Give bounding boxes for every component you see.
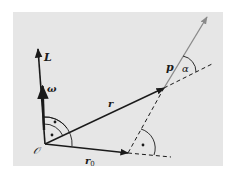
label-L: L — [43, 51, 52, 64]
angular-velocity-vector — [43, 86, 45, 130]
right-angle-dot-r0 — [142, 144, 145, 147]
label-r: r — [108, 98, 114, 109]
right-angle-dot-inner — [51, 134, 54, 137]
label-p: p — [166, 61, 174, 74]
label-alpha: α — [182, 63, 189, 74]
label-omega: ω — [47, 83, 57, 94]
right-angle-dot-outer — [54, 121, 57, 124]
angular-momentum-diagram: L ω r p α r0 𝒪 — [0, 0, 235, 175]
